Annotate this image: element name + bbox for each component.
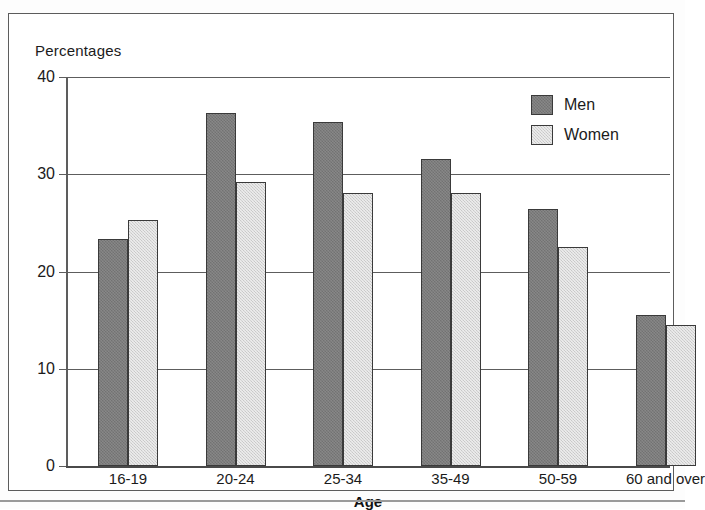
x-tick-label-60-and-over: 60 and over [626,470,705,487]
legend-label: Women [564,126,619,144]
bar-men-60-and-over [636,315,666,466]
bar-women-60-and-over [666,325,696,466]
legend-item-men: Men [531,90,619,120]
y-tick-label: 20 [37,263,55,281]
y-axis-tick-20 [59,272,66,273]
legend-item-women: Women [531,120,619,150]
x-tick-label-20-24: 20-24 [216,470,254,487]
y-axis-tick-40 [59,77,66,78]
gridline-40 [66,77,670,78]
bar-men-16-19 [98,239,128,466]
bar-women-20-24 [236,182,266,466]
x-tick-label-35-49: 35-49 [431,470,469,487]
y-axis-tick-30 [59,174,66,175]
bar-men-20-24 [206,113,236,466]
y-axis-tick-10 [59,369,66,370]
y-tick-label: 30 [37,165,55,183]
y-axis-caption: Percentages [35,42,121,59]
bar-women-16-19 [128,220,158,466]
bar-men-35-49 [421,159,451,466]
y-tick-label: 0 [46,457,55,475]
figure-frame: Percentages 010203040 16-1920-2425-3435-… [8,13,674,491]
page-edge-line [0,500,685,502]
x-tick-label-16-19: 16-19 [109,470,147,487]
x-tick-label-25-34: 25-34 [324,470,362,487]
legend: MenWomen [531,90,619,150]
x-tick-label-50-59: 50-59 [539,470,577,487]
legend-swatch-women [531,125,553,145]
bar-women-35-49 [451,193,481,466]
y-tick-label: 10 [37,360,55,378]
bar-women-50-59 [558,247,588,466]
bar-men-25-34 [313,122,343,466]
bar-men-50-59 [528,209,558,466]
gridline-30 [66,174,670,175]
y-tick-label: 40 [37,68,55,86]
gridline-0 [66,466,670,468]
legend-label: Men [564,96,595,114]
legend-swatch-men [531,95,553,115]
y-axis-tick-0 [59,466,66,467]
bar-women-25-34 [343,193,373,466]
